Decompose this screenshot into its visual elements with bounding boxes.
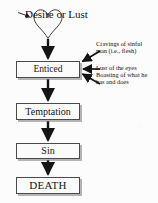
node-temptation-label: Temptation (25, 107, 70, 117)
node-enticed-label: Enticed (33, 65, 62, 75)
node-sin: Sin (16, 143, 80, 159)
annotation-boasting: Boasting of what he has and does (96, 71, 158, 86)
heart-label: Desire or Lust (25, 9, 88, 20)
node-sin-label: Sin (41, 146, 54, 156)
node-death: DEATH (16, 177, 80, 194)
diagram-artwork (0, 0, 158, 203)
node-enticed: Enticed (16, 61, 80, 78)
node-temptation: Temptation (16, 103, 80, 120)
diagram-canvas: Desire or Lust Enticed Temptation Sin DE… (0, 0, 158, 203)
annotation-cravings: Cravings of sinful man (i.e., flesh) (96, 40, 158, 55)
node-death-label: DEATH (29, 180, 67, 191)
